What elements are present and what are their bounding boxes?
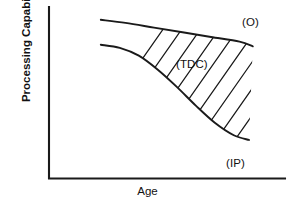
hatch-line xyxy=(245,0,295,205)
hatch-line xyxy=(171,0,295,205)
curve-optimal xyxy=(101,20,253,47)
curve-label-impaired: (IP) xyxy=(226,157,245,169)
hatch-line xyxy=(133,0,295,205)
hatch-line xyxy=(227,0,295,205)
hatch-line xyxy=(264,0,295,205)
hatch-line xyxy=(283,0,295,205)
x-axis-label: Age xyxy=(0,185,295,197)
hatch-line xyxy=(208,0,295,205)
curve-label-optimal: (O) xyxy=(242,16,259,28)
chart-figure: (O) (TDC) (IP) Age Processing Capability xyxy=(0,0,295,205)
hatch-line xyxy=(40,0,281,205)
hatch-line xyxy=(96,0,295,205)
chart-plot-area xyxy=(0,0,295,205)
y-axis-label-container: Processing Capability xyxy=(20,0,40,122)
hatch-line xyxy=(77,0,295,205)
curve-label-tdc: (TDC) xyxy=(176,58,208,70)
y-axis-label: Processing Capability xyxy=(20,0,32,122)
